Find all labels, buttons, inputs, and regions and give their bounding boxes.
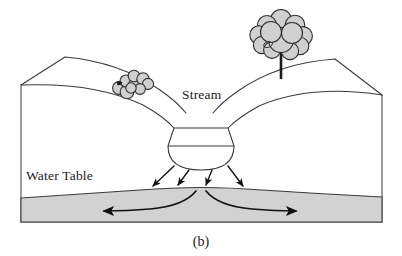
figure-container: Stream Water Table (b) (0, 0, 402, 256)
water-table-label: Water Table (26, 168, 93, 183)
figure-caption: (b) (193, 234, 210, 250)
saturated-zone-fill (21, 188, 382, 223)
stream-label: Stream (182, 87, 222, 102)
stream-channel (168, 128, 234, 170)
hillslope-brow-right (228, 91, 382, 128)
stream-recharge-diagram: Stream Water Table (b) (0, 0, 402, 256)
hillslope-brow-left (21, 85, 174, 128)
shrub-left (113, 70, 154, 99)
tree-canopy (250, 10, 313, 60)
recharge-arrow-3 (206, 170, 212, 185)
recharge-arrow-2 (178, 170, 189, 185)
channel-cross-section (168, 128, 234, 170)
recharge-arrow-1 (153, 166, 174, 186)
recharge-arrow-4 (228, 166, 243, 186)
aquifer-zone (21, 188, 382, 223)
ridge-crest-right (213, 59, 382, 113)
tree-right (250, 10, 313, 80)
